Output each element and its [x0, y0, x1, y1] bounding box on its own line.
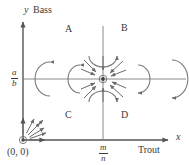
region-label-d: D — [121, 110, 128, 120]
region-label-b: B — [121, 23, 128, 33]
region-label-c: C — [65, 110, 72, 120]
frac-numerator-m: m — [99, 143, 108, 152]
vertical-nullcline-label: m n — [99, 143, 108, 164]
frac-numerator-a: a — [11, 68, 18, 77]
y-axis-variable-label: y — [24, 5, 28, 15]
horizontal-nullcline-label: a b — [11, 68, 18, 89]
phase-plane-canvas — [0, 0, 189, 165]
origin-outflow-arrows — [23, 118, 46, 140]
x-axis-variable-label: x — [176, 132, 180, 142]
frac-denominator-b: b — [11, 79, 18, 88]
origin-coordinate-label: (0, 0) — [7, 147, 29, 157]
x-axis-species-label: Trout — [138, 145, 160, 155]
phase-plane-figure: y Bass x Trout (0, 0) a b m n A B C D — [0, 0, 189, 165]
frac-denominator-n: n — [99, 154, 108, 163]
region-label-a: A — [65, 24, 72, 34]
y-axis-species-label: Bass — [33, 5, 52, 15]
